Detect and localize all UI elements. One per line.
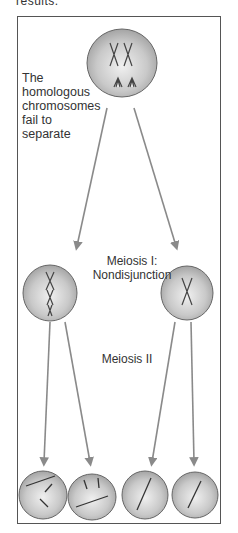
gamete-2 xyxy=(68,474,116,520)
label-fail-to-separate: The homologous chromosomes fail to separ… xyxy=(22,71,102,141)
label-line: fail to xyxy=(22,113,102,127)
label-meiosis-two: Meiosis II xyxy=(92,352,162,366)
label-line: Meiosis I: xyxy=(86,254,178,268)
gamete-3 xyxy=(122,471,168,519)
daughter-cell-left xyxy=(23,265,77,321)
label-line: Nondisjunction xyxy=(86,268,178,282)
gamete-4 xyxy=(172,472,218,518)
label-line: The xyxy=(22,71,102,85)
label-line: homologous xyxy=(22,85,102,99)
gamete-1 xyxy=(19,471,67,519)
label-meiosis-one: Meiosis I: Nondisjunction xyxy=(86,254,178,282)
label-line: separate xyxy=(22,127,102,141)
arrows-meiosis-two xyxy=(44,322,194,462)
label-line: chromosomes xyxy=(22,99,102,113)
